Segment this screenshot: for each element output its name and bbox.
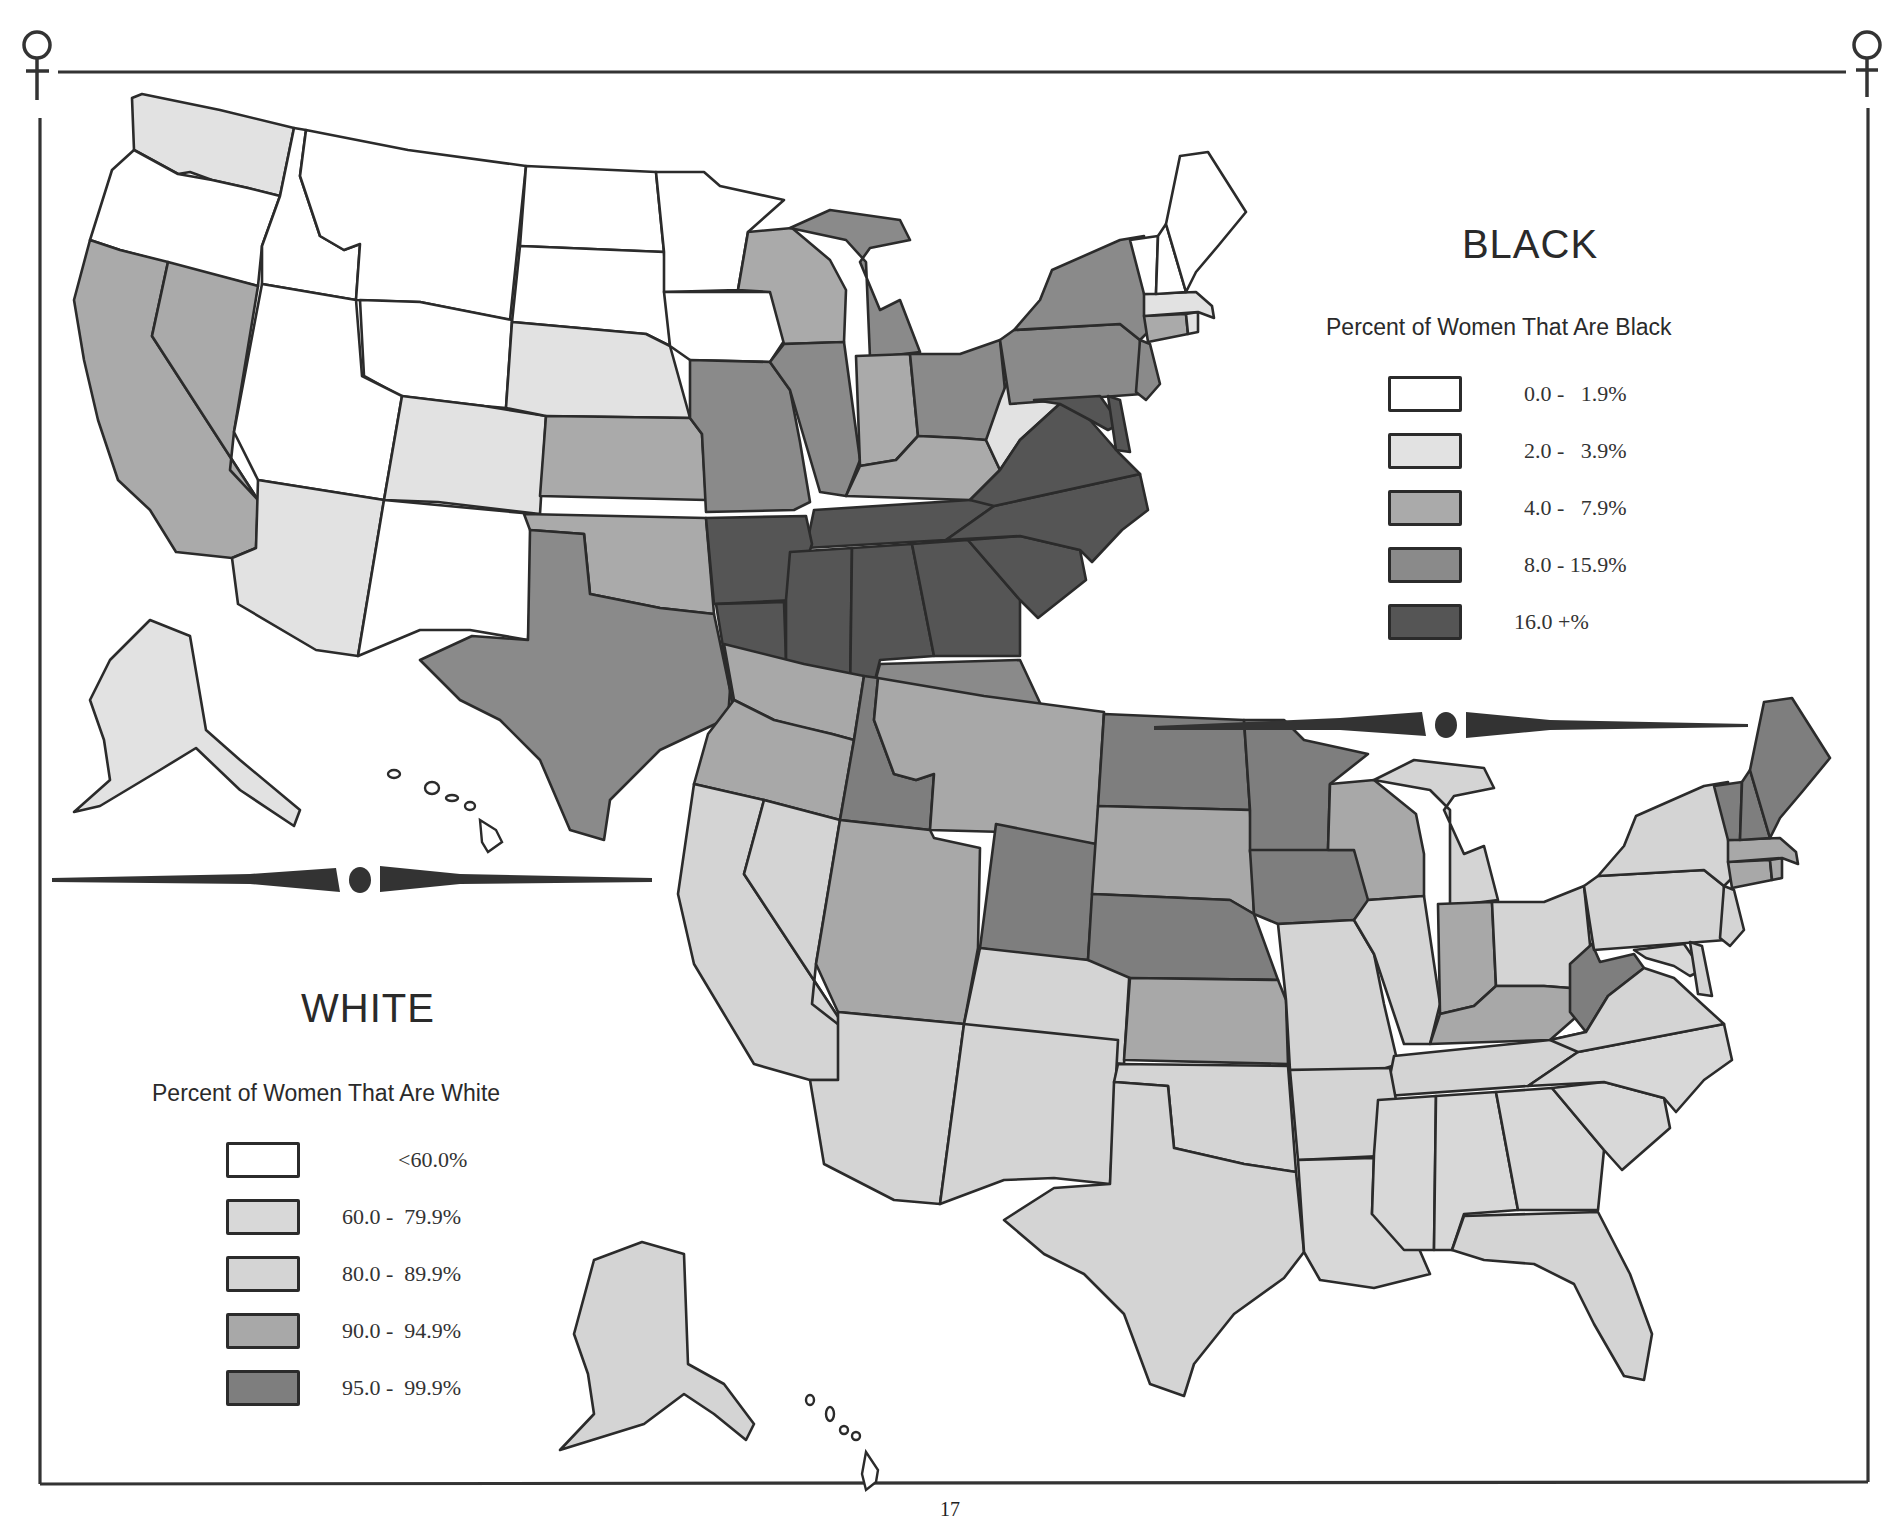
black-legend-row: 16.0 +% <box>1388 604 1589 640</box>
white-legend-subtitle: Percent of Women That Are White <box>152 1080 500 1107</box>
state-co[interactable] <box>384 396 546 514</box>
state-hi[interactable] <box>806 1395 878 1490</box>
legend-swatch <box>226 1142 300 1178</box>
state-nj[interactable] <box>1136 340 1160 400</box>
state-ny[interactable] <box>1014 236 1150 340</box>
state-pa[interactable] <box>1584 870 1726 950</box>
legend-swatch <box>1388 433 1462 469</box>
state-fl[interactable] <box>1452 1212 1652 1380</box>
black-legend: BLACK Percent of Women That Are Black 0.… <box>1320 222 1780 662</box>
state-ak[interactable] <box>74 620 300 826</box>
legend-label: 0.0 - 1.9% <box>1524 381 1627 407</box>
legend-label: 80.0 - 89.9% <box>342 1261 461 1287</box>
state-de[interactable] <box>1690 942 1712 996</box>
page-number: 17 <box>940 1498 960 1520</box>
white-legend-title: WHITE <box>258 986 478 1031</box>
legend-label: 2.0 - 3.9% <box>1524 438 1627 464</box>
state-ma[interactable] <box>1144 292 1214 318</box>
legend-swatch <box>226 1256 300 1292</box>
state-ia[interactable] <box>1250 850 1374 924</box>
female-symbol-icon-left <box>24 32 50 100</box>
black-legend-row: 2.0 - 3.9% <box>1388 433 1627 469</box>
white-legend-row: 80.0 - 89.9% <box>226 1256 461 1292</box>
legend-swatch <box>226 1370 300 1406</box>
female-symbol-icon-right <box>1854 32 1880 97</box>
state-nm[interactable] <box>358 500 534 656</box>
legend-swatch <box>226 1313 300 1349</box>
ornament-divider-left <box>52 866 652 893</box>
legend-swatch <box>1388 490 1462 526</box>
white-legend: WHITE Percent of Women That Are White <6… <box>148 986 598 1426</box>
black-legend-subtitle: Percent of Women That Are Black <box>1326 314 1672 341</box>
state-nd[interactable] <box>520 166 664 252</box>
black-legend-row: 8.0 - 15.9% <box>1388 547 1627 583</box>
state-ct[interactable] <box>1728 860 1772 888</box>
state-ks[interactable] <box>1124 978 1288 1064</box>
legend-swatch <box>226 1199 300 1235</box>
legend-label: 95.0 - 99.9% <box>342 1375 461 1401</box>
white-legend-row: 90.0 - 94.9% <box>226 1313 461 1349</box>
white-legend-row: 60.0 - 79.9% <box>226 1199 461 1235</box>
white-legend-row: <60.0% <box>226 1142 467 1178</box>
legend-swatch <box>1388 376 1462 412</box>
legend-label: 90.0 - 94.9% <box>342 1318 461 1344</box>
state-ct[interactable] <box>1144 314 1188 342</box>
black-legend-row: 4.0 - 7.9% <box>1388 490 1627 526</box>
legend-swatch <box>1388 604 1462 640</box>
legend-label: 16.0 +% <box>1514 609 1589 635</box>
state-ks[interactable] <box>540 416 706 500</box>
legend-label: <60.0% <box>398 1147 467 1173</box>
state-ri[interactable] <box>1186 312 1198 334</box>
legend-label: 8.0 - 15.9% <box>1524 552 1627 578</box>
black-legend-title: BLACK <box>1430 222 1630 267</box>
state-ma[interactable] <box>1728 838 1798 864</box>
state-ri[interactable] <box>1770 858 1782 880</box>
legend-label: 60.0 - 79.9% <box>342 1204 461 1230</box>
legend-swatch <box>1388 547 1462 583</box>
state-nm[interactable] <box>940 1024 1118 1204</box>
state-ia[interactable] <box>664 292 790 362</box>
white-map <box>560 644 1830 1490</box>
state-wy[interactable] <box>980 824 1096 960</box>
state-nj[interactable] <box>1720 886 1744 946</box>
black-legend-row: 0.0 - 1.9% <box>1388 376 1627 412</box>
state-hi[interactable] <box>388 770 502 852</box>
white-legend-row: 95.0 - 99.9% <box>226 1370 461 1406</box>
atlas-page: BLACK Percent of Women That Are Black 0.… <box>0 0 1904 1520</box>
state-ny[interactable] <box>1598 782 1734 886</box>
legend-label: 4.0 - 7.9% <box>1524 495 1627 521</box>
state-pa[interactable] <box>1000 324 1142 404</box>
state-ut[interactable] <box>816 820 980 1024</box>
